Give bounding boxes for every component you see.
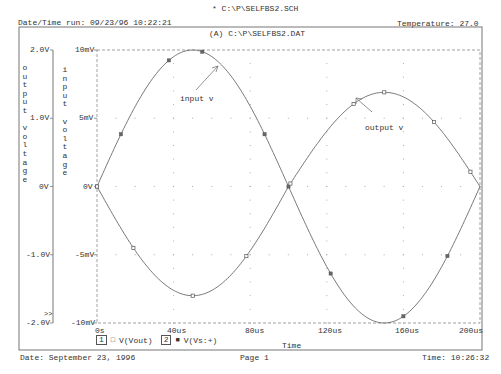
output-tick-neg2v: -2.0V [26, 319, 50, 327]
input-annotation-arrow [196, 66, 218, 90]
legend-label-vs: V(Vs:+) [184, 336, 218, 345]
input-tick-5mv: 5mV [79, 114, 93, 122]
legend-label-vout: V(Vout) [119, 336, 153, 345]
x-tick-40us: 40us [167, 327, 186, 335]
output-tick-0v: 0V [39, 183, 49, 191]
output-tick-1v: 1.0V [30, 114, 49, 122]
x-tick-200us: 200us [459, 327, 483, 335]
input-tick-neg10mv: -10mV [71, 319, 95, 327]
input-tick-10mv: 10mV [75, 46, 94, 54]
output-tick-neg1v: -1.0V [26, 251, 50, 259]
output-voltage-trace [97, 92, 480, 295]
legend-index-1: 1 [96, 335, 107, 345]
output-annotation-arrow [356, 98, 372, 112]
legend: 1 □ V(Vout) 2 ■ V(Vs:+) [96, 335, 217, 345]
x-tick-80us: 80us [245, 327, 264, 335]
footer-date: Date: September 23, 1996 [20, 354, 135, 362]
footer-time: Time: 10:26:32 [422, 354, 489, 362]
overflow-marker: >> [44, 311, 52, 318]
legend-symbol-filled-square: ■ [175, 336, 179, 344]
legend-index-2: 2 [161, 335, 172, 345]
output-annotation: output v [365, 124, 403, 132]
footer-page: Page 1 [240, 354, 269, 362]
legend-symbol-open-square: □ [111, 336, 115, 344]
input-annotation: input v [180, 95, 214, 103]
x-tick-120us: 120us [318, 327, 342, 335]
output-voltage-axis-label: output voltage [21, 64, 29, 184]
x-tick-160us: 160us [395, 327, 419, 335]
x-tick-0s: 0s [95, 327, 105, 335]
output-tick-2v: 2.0V [30, 46, 49, 54]
input-tick-0v: 0V [83, 183, 93, 191]
input-tick-neg5mv: -5mV [75, 251, 94, 259]
input-voltage-axis-label: input voltage [61, 66, 69, 178]
grid-dots [116, 63, 481, 323]
x-axis-label: Time [282, 342, 301, 350]
